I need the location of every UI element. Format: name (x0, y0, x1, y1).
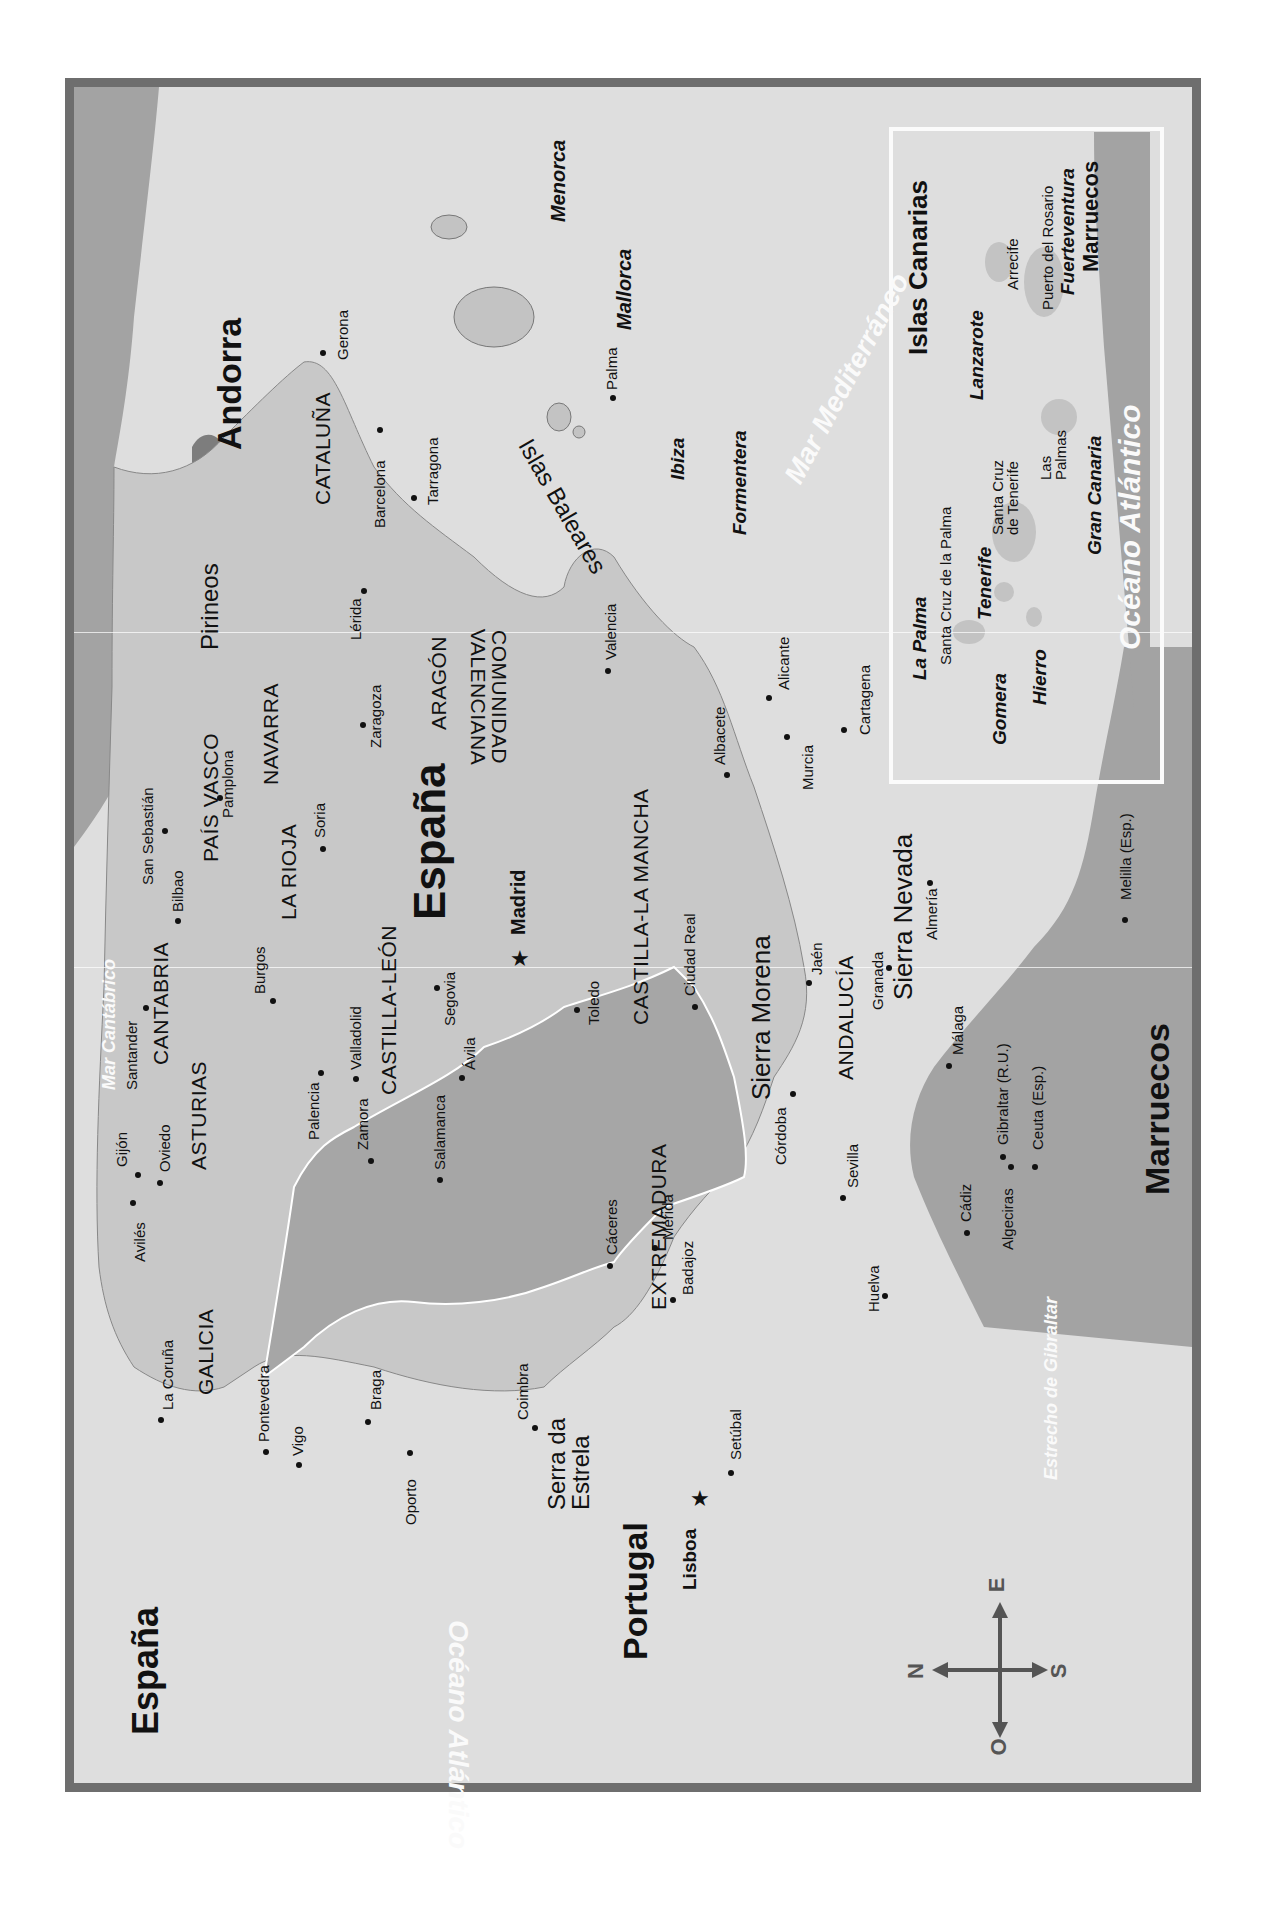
city-oviedo: Oviedo (157, 1124, 172, 1172)
city-huelva: Huelva (866, 1265, 881, 1312)
island-formentera: Formentera (730, 430, 749, 535)
city-ciudad-real: Ciudad Real (682, 913, 697, 996)
city-dot (158, 1417, 164, 1423)
island-tenerife: Tenerife (975, 547, 994, 620)
city-melilla: Melilla (Esp.) (1118, 813, 1133, 900)
city-dot (946, 1063, 952, 1069)
city-granada: Granada (870, 952, 885, 1010)
sea-atlantic: Océano Atlántico (444, 1620, 472, 1849)
island-la-palma: La Palma (910, 597, 929, 680)
region-castilla-la-mancha: CASTILLA-LA MANCHA (630, 788, 651, 1025)
city-dot (353, 1076, 359, 1082)
city-merida: Mérida (660, 1194, 675, 1240)
island-mallorca: Mallorca (614, 249, 634, 330)
city-cadiz: Cádiz (958, 1184, 973, 1222)
city-dot (270, 998, 276, 1004)
city-arrecife: Arrecife (1005, 238, 1020, 290)
canary-title: Islas Canarias (905, 180, 931, 355)
city-las-palmas: Las Palmas (1038, 420, 1068, 480)
city-malaga: Málaga (950, 1006, 965, 1055)
city-dot (574, 1007, 580, 1013)
country-andorra: Andorra (212, 318, 246, 450)
city-santa-cruz-la-palma: Santa Cruz de la Palma (938, 507, 953, 665)
city-braga: Braga (368, 1370, 383, 1410)
city-alicante: Alicante (776, 637, 791, 690)
country-morocco: Marruecos (1140, 1023, 1174, 1195)
sea-cantabrian-label: Mar Cantábrico (100, 959, 118, 1090)
city-dot (1122, 917, 1128, 923)
compass-s: S (1046, 1664, 1072, 1679)
city-dot (318, 1070, 324, 1076)
city-cartagena: Cartagena (857, 665, 872, 735)
region-cataluna: CATALUÑA (312, 392, 333, 505)
city-avila: Ávila (462, 1037, 477, 1070)
sea-atlantic-inset: Océano Atlántico (1115, 404, 1145, 650)
city-barcelona: Barcelona (372, 460, 387, 528)
city-dot (361, 588, 367, 594)
city-vigo: Vigo (290, 1426, 305, 1456)
city-puerto-del-rosario: Puerto del Rosario (1040, 186, 1055, 310)
city-dot (434, 985, 440, 991)
city-dot (175, 918, 181, 924)
city-dot (368, 1158, 374, 1164)
city-pamplona: Pamplona (220, 750, 235, 818)
city-dot (162, 828, 168, 834)
city-soria: Soria (312, 803, 327, 838)
mountain-sierra-morena: Sierra Morena (748, 935, 774, 1100)
city-dot (360, 722, 366, 728)
city-palencia: Palencia (306, 1082, 321, 1140)
city-dot (320, 846, 326, 852)
city-dot (459, 1075, 465, 1081)
compass-o: O (986, 1738, 1012, 1755)
city-dot (411, 495, 417, 501)
city-murcia: Murcia (800, 745, 815, 790)
city-santa-cruz-tenerife: Santa Cruz de Tenerife (990, 455, 1020, 535)
region-asturias: ASTURIAS (188, 1061, 209, 1170)
capital-madrid: Madrid (508, 869, 528, 935)
city-badajoz: Badajoz (680, 1241, 695, 1295)
island-gomera: Gomera (990, 673, 1009, 745)
city-dot (143, 1005, 149, 1011)
city-dot (670, 1297, 676, 1303)
island-fuerteventura: Fuerteventura (1058, 168, 1077, 295)
city-dot (652, 1245, 658, 1251)
city-dot (437, 1177, 443, 1183)
region-la-rioja: LA RIOJA (278, 824, 299, 920)
city-dot (692, 1004, 698, 1010)
city-san-sebastian: San Sebastián (140, 787, 155, 885)
city-dot (886, 965, 892, 971)
mountain-sierra-nevada: Sierra Nevada (890, 834, 916, 1000)
island-ibiza: Ibiza (668, 438, 687, 480)
city-dot (1008, 1164, 1014, 1170)
island-hierro: Hierro (1030, 649, 1049, 705)
city-aviles: Avilés (132, 1222, 147, 1262)
city-la-coruna: La Coruña (160, 1340, 175, 1410)
capital-lisboa: Lisboa (680, 1529, 699, 1590)
city-tarragona: Tarragona (425, 437, 440, 505)
city-dot (157, 1180, 163, 1186)
city-sevilla: Sevilla (845, 1144, 860, 1188)
city-gibraltar: Gibraltar (R.U.) (995, 1043, 1010, 1145)
region-andalucia: ANDALUCÍA (835, 955, 856, 1080)
city-dot (927, 880, 933, 886)
city-caceres: Cáceres (604, 1199, 619, 1255)
city-valladolid: Valladolid (348, 1006, 363, 1070)
compass-n: N (903, 1663, 929, 1679)
city-dot (130, 1200, 136, 1206)
city-dot (766, 695, 772, 701)
city-jaen: Jaén (809, 942, 824, 975)
city-dot (790, 1091, 796, 1097)
city-bilbao: Bilbao (170, 870, 185, 912)
capital-star-madrid: ★ (510, 948, 530, 970)
city-setubal: Setúbal (728, 1409, 743, 1460)
city-lerida: Lérida (348, 598, 363, 640)
city-burgos: Burgos (252, 946, 267, 994)
city-segovia: Segovia (442, 972, 457, 1026)
compass-rose: N S E O (900, 1600, 1080, 1740)
city-dot (607, 1263, 613, 1269)
city-pontevedra: Pontevedra (256, 1365, 271, 1442)
mountain-pyrenees: Pirineos (198, 563, 222, 650)
city-dot (728, 1470, 734, 1476)
city-zamora: Zamora (355, 1098, 370, 1150)
map-title: España (128, 1607, 164, 1735)
